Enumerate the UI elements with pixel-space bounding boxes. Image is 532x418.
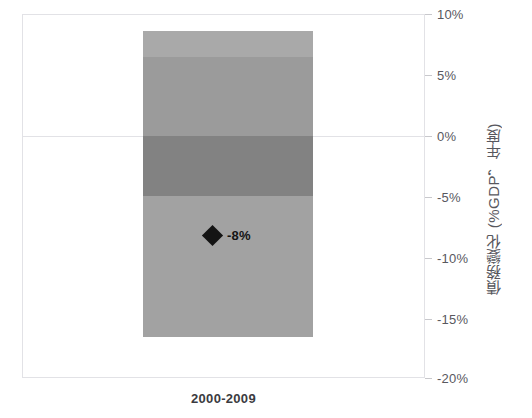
y-tick-label-neg5: -5% <box>437 191 461 204</box>
y-tick-label-neg20: -20% <box>437 372 468 385</box>
x-axis-category-label: 2000-2009 <box>22 391 425 406</box>
y-tick-mark-neg20 <box>425 378 432 379</box>
y-tick-mark-neg15 <box>425 319 432 320</box>
y-tick-label-10: 10% <box>437 8 464 21</box>
y-tick-label-0: 0% <box>437 130 456 143</box>
y-axis-title: 債務變化 (%GDP，年度) <box>480 0 506 418</box>
y-tick-mark-5 <box>425 75 432 76</box>
y-axis-title-text: 債務變化 (%GDP，年度) <box>483 123 504 295</box>
y-tick-mark-0 <box>425 136 432 137</box>
y-tick-mark-neg10 <box>425 258 432 259</box>
diamond-marker-icon <box>202 224 223 245</box>
bar-band-1 <box>143 31 313 57</box>
bar-band-3 <box>143 136 313 196</box>
y-tick-label-neg10: -10% <box>437 252 468 265</box>
truncated-chart-title: —— ———— —— — ——— —— <box>55 0 200 2</box>
data-point-marker-group[interactable]: -8% <box>205 226 251 244</box>
y-tick-mark-neg5 <box>425 197 432 198</box>
data-point-label: -8% <box>227 228 251 243</box>
bar-band-4 <box>143 196 313 337</box>
y-tick-label-5: 5% <box>437 69 456 82</box>
stacked-bar-2000-2009[interactable] <box>143 31 313 337</box>
y-tick-mark-10 <box>425 14 432 15</box>
y-tick-label-neg15: -15% <box>437 313 468 326</box>
bar-band-2 <box>143 57 313 136</box>
